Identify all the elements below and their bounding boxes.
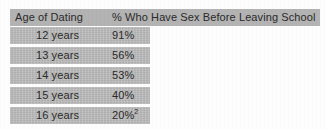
cell-percent-value: 40% bbox=[112, 89, 134, 101]
column-header-percent-who-have-sex-before-leaving-school: % Who Have Sex Before Leaving School bbox=[112, 9, 316, 26]
table-row: 15 years 40% bbox=[10, 87, 150, 104]
table-row: 16 years 20%2 bbox=[10, 107, 150, 124]
cell-age: 15 years bbox=[10, 87, 105, 104]
cell-age: 12 years bbox=[10, 27, 105, 44]
column-header-age-of-dating: Age of Dating bbox=[15, 9, 83, 26]
cell-age: 14 years bbox=[10, 67, 105, 84]
table-row: 14 years 53% bbox=[10, 67, 150, 84]
cell-percent: 40% bbox=[112, 87, 134, 104]
cell-percent-value: 56% bbox=[112, 49, 134, 61]
cell-percent: 56% bbox=[112, 47, 134, 64]
cell-age: 16 years bbox=[10, 107, 105, 124]
table-row: 13 years 56% bbox=[10, 47, 150, 64]
table-row: 12 years 91% bbox=[10, 27, 150, 44]
cell-percent: 20%2 bbox=[112, 107, 138, 124]
cell-percent-value: 91% bbox=[112, 29, 134, 41]
cell-percent-value: 20% bbox=[112, 109, 134, 121]
footnote-marker: 2 bbox=[134, 108, 138, 115]
cell-age: 13 years bbox=[10, 47, 105, 64]
table-header-row: Age of Dating % Who Have Sex Before Leav… bbox=[10, 9, 320, 26]
data-table: Age of Dating % Who Have Sex Before Leav… bbox=[0, 0, 325, 129]
cell-percent: 53% bbox=[112, 67, 134, 84]
cell-percent: 91% bbox=[112, 27, 134, 44]
cell-percent-value: 53% bbox=[112, 69, 134, 81]
